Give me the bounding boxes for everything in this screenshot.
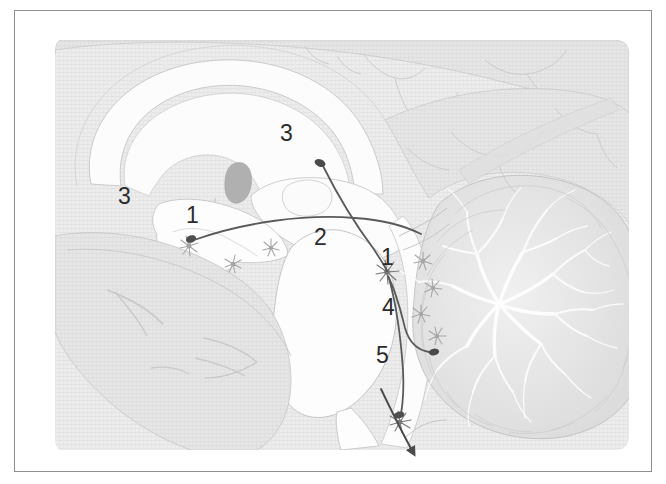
figure-frame: 3 1 3 2 1 4 5: [14, 10, 652, 472]
illustration-panel: [55, 36, 635, 456]
figure-root: 3 1 3 2 1 4 5: [0, 0, 666, 484]
massa-intermedia: [282, 180, 332, 216]
label-1-right: 1: [381, 246, 394, 269]
label-1-left: 1: [186, 204, 199, 227]
label-4: 4: [382, 296, 395, 319]
label-5: 5: [376, 344, 389, 367]
label-3-top: 3: [280, 122, 293, 145]
label-3-left: 3: [118, 185, 131, 208]
label-2: 2: [314, 226, 327, 249]
brain-sagittal-svg: [55, 36, 635, 456]
